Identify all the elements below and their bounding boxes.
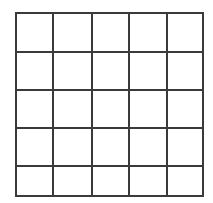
grid-cell [167, 90, 203, 128]
grid-cell [92, 13, 129, 52]
grid-cell [129, 13, 167, 52]
grid-cell [16, 128, 53, 166]
grid-cell [167, 166, 203, 196]
grid-cell [16, 90, 53, 128]
grid-cell [92, 166, 129, 196]
grid-cell [53, 128, 92, 166]
grid-cell [16, 166, 53, 196]
grid-cell [129, 90, 167, 128]
grid-diagram [0, 0, 213, 203]
grid-cell [16, 52, 53, 90]
grid-cell [92, 90, 129, 128]
grid-cell [129, 128, 167, 166]
grid-cell [92, 52, 129, 90]
grid-cell [129, 166, 167, 196]
grid-cell [53, 52, 92, 90]
grid-cell [53, 90, 92, 128]
grid-cell [167, 128, 203, 166]
grid-cell [167, 52, 203, 90]
grid-cell [92, 128, 129, 166]
grid-cell [129, 52, 167, 90]
grid-cell [167, 13, 203, 52]
grid-cell [53, 166, 92, 196]
grid-cell [16, 13, 53, 52]
grid-cell [53, 13, 92, 52]
